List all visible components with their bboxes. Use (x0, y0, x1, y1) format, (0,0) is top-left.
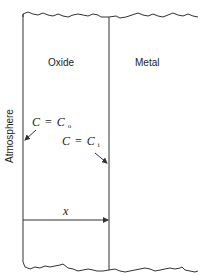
subscript-i: i (98, 141, 100, 149)
inner-concentration-annotation: C = C i (62, 134, 107, 163)
thickness-label: x (62, 204, 69, 218)
c-lhs: C (32, 115, 41, 129)
oxide-label: Oxide (48, 57, 75, 68)
equals-sign: = (75, 134, 82, 148)
top-break-edge (23, 12, 198, 18)
c-rhs: C (87, 134, 96, 148)
metal-label: Metal (135, 57, 159, 68)
equals-sign: = (45, 115, 52, 129)
thickness-dimension: x (23, 204, 108, 220)
atmosphere-label: Atmosphere (4, 109, 15, 163)
bottom-break-edge (23, 262, 198, 272)
svg-text:C = C i: C = C i (62, 134, 100, 149)
outer-concentration-arrow-icon (25, 130, 36, 140)
svg-text:C = C o: C = C o (32, 115, 72, 130)
subscript-o: o (68, 122, 72, 130)
c-rhs: C (57, 115, 66, 129)
oxide-metal-diagram: Oxide Metal Atmosphere C = C o C = C i x (0, 0, 203, 275)
c-lhs: C (62, 134, 71, 148)
inner-concentration-arrow-icon (95, 153, 107, 163)
